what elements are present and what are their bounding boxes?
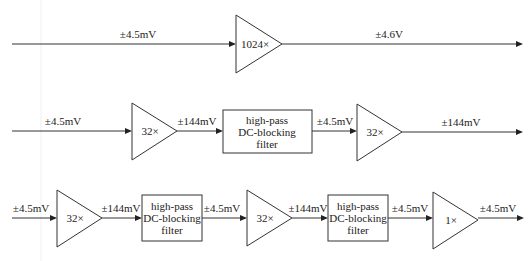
arrow-icon xyxy=(216,128,223,134)
row2-amp1-output-label: ±144mV xyxy=(177,115,216,127)
row3-amp2-output-label: ±144mV xyxy=(288,202,327,214)
arrow-icon xyxy=(516,41,523,47)
row1-amplifier-gain: 1024× xyxy=(241,38,269,50)
row2-input-label: ±4.5mV xyxy=(45,115,81,127)
row3-filter-2-line3: filter xyxy=(347,224,369,236)
row3-input-label: ±4.5mV xyxy=(13,202,49,214)
row3-filter-1-line3: filter xyxy=(161,224,183,236)
row2-output-label: ±144mV xyxy=(441,116,480,128)
row2-filter-line2: DC-blocking xyxy=(238,126,296,138)
row3-amp1-output-label: ±144mV xyxy=(101,202,140,214)
row1-input-label: ±4.5mV xyxy=(120,28,156,40)
arrow-icon xyxy=(517,215,524,221)
row2-filter-line3: filter xyxy=(256,138,278,150)
row3-filter-2-line1: high-pass xyxy=(337,200,379,212)
arrow-icon xyxy=(135,215,142,221)
arrow-icon xyxy=(321,215,328,221)
row1-output-label: ±4.6V xyxy=(375,28,403,40)
row3-filter-1-line1: high-pass xyxy=(151,200,193,212)
row-2: ±4.5mV 32× ±144mV high-pass DC-blocking … xyxy=(12,103,523,161)
arrow-icon xyxy=(426,215,433,221)
row3-output-label: ±4.5mV xyxy=(480,202,516,214)
row2-amplifier-1-gain: 32× xyxy=(141,125,158,137)
row2-filter-line1: high-pass xyxy=(246,114,288,126)
arrow-icon xyxy=(240,215,247,221)
arrow-icon xyxy=(516,129,523,135)
arrow-icon xyxy=(50,215,57,221)
row-3: ±4.5mV 32× ±144mV high-pass DC-blocking … xyxy=(12,190,524,249)
block-diagram: ±4.5mV 1024× ±4.6V ±4.5mV 32× ±144mV hig… xyxy=(0,0,530,261)
row3-amplifier-3-gain: 1× xyxy=(445,214,457,226)
row3-amplifier-2-gain: 32× xyxy=(256,212,273,224)
row-1: ±4.5mV 1024× ±4.6V xyxy=(12,15,523,73)
row3-amplifier-1-gain: 32× xyxy=(66,212,83,224)
row3-filter-2-line2: DC-blocking xyxy=(329,212,387,224)
arrow-icon xyxy=(229,41,236,47)
row3-filter1-output-label: ±4.5mV xyxy=(204,202,240,214)
row3-filter2-output-label: ±4.5mV xyxy=(392,202,428,214)
row3-filter-1-line2: DC-blocking xyxy=(143,212,201,224)
arrow-icon xyxy=(125,128,132,134)
row2-amplifier-2-gain: 32× xyxy=(366,126,383,138)
arrow-icon xyxy=(350,128,357,134)
row2-filter-output-label: ±4.5mV xyxy=(317,115,353,127)
